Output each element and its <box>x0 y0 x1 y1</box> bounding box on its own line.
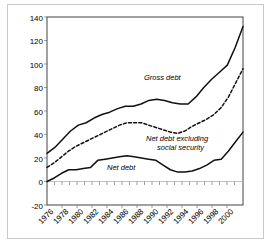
chart-figure: 140 120 100 80 60 40 20 0 -20 <box>0 0 271 252</box>
y-tick-label: 120 <box>30 37 44 46</box>
x-tick-label: 2000 <box>216 207 235 226</box>
x-tick-label: 1990 <box>141 207 160 226</box>
x-axis-tick-labels: 1976 1978 1980 1982 1984 1986 1988 1990 … <box>36 207 235 226</box>
annotation-net-debt: Net debt <box>107 163 136 172</box>
x-tick-label: 1982 <box>81 207 100 226</box>
plot-background <box>47 17 243 205</box>
y-tick-label: 20 <box>34 155 43 164</box>
y-tick-label: -20 <box>31 202 43 211</box>
x-tick-label: 1998 <box>201 207 220 226</box>
annotation-net-debt-excluding-social-security-line2: social security <box>157 143 205 152</box>
x-tick-label: 1988 <box>126 207 145 226</box>
x-tick-label: 1992 <box>156 207 175 226</box>
y-tick-label: 0 <box>39 178 44 187</box>
x-tick-label: 1980 <box>66 207 85 226</box>
y-tick-label: 60 <box>34 108 43 117</box>
debt-line-chart: 140 120 100 80 60 40 20 0 -20 <box>0 0 271 252</box>
annotation-net-debt-excluding-social-security-line1: Net debt excluding <box>146 134 209 143</box>
annotation-gross-debt: Gross debt <box>144 73 182 82</box>
y-tick-label: 80 <box>34 84 43 93</box>
x-tick-label: 1984 <box>96 207 115 226</box>
x-tick-label: 1978 <box>51 207 70 226</box>
y-tick-label: 100 <box>30 61 44 70</box>
y-tick-label: 140 <box>30 14 44 23</box>
y-axis-tick-labels: 140 120 100 80 60 40 20 0 -20 <box>30 14 44 211</box>
y-tick-label: 40 <box>34 131 43 140</box>
x-tick-label: 1986 <box>111 207 130 226</box>
x-tick-label: 1996 <box>186 207 205 226</box>
x-tick-label: 1994 <box>171 207 190 226</box>
